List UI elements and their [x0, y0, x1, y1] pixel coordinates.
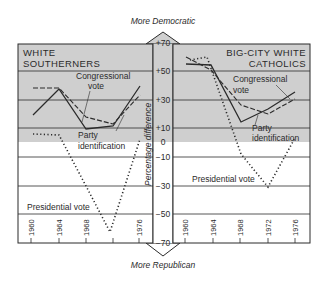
top-caption: More Democratic: [131, 16, 196, 26]
tick-plus-70: +70: [156, 38, 171, 48]
tick-plus-50: +50: [156, 66, 171, 76]
left-label-congressional-2: vote: [88, 81, 104, 91]
tick-zero: 0: [161, 137, 166, 147]
tick-minus-30: −30: [156, 181, 171, 191]
chart: More Democratic WHITE SOUTHERNERS Congre…: [0, 0, 326, 282]
tick-plus-10: +10: [156, 123, 171, 133]
y-axis-label: Percentage difference: [143, 103, 153, 186]
right-label-presidential: Presidential vote: [192, 174, 255, 184]
right-year-1972: 1972: [264, 219, 273, 236]
tick-minus-70: −70: [156, 238, 171, 248]
left-title-line2: SOUTHERNERS: [23, 58, 100, 69]
right-label-congressional: Congressional: [233, 74, 287, 84]
left-label-congressional: Congressional: [76, 71, 130, 81]
left-year-1960: 1960: [27, 219, 36, 236]
central-axis: +70 +50 +30 +10 0 −10 −30 −50 −70: [153, 38, 173, 248]
left-label-presidential: Presidential vote: [27, 202, 90, 212]
right-year-1964: 1964: [209, 219, 218, 236]
tick-plus-30: +30: [156, 95, 171, 105]
right-title-line1: BIG-CITY WHITE: [226, 47, 306, 58]
left-year-1968: 1968: [82, 219, 91, 236]
right-year-1968: 1968: [236, 219, 245, 236]
left-label-party-2: identification: [78, 141, 126, 151]
right-label-party-2: identification: [252, 133, 300, 143]
tick-minus-50: −50: [156, 209, 171, 219]
right-label-congressional-2: vote: [233, 85, 249, 95]
right-title-line2: CATHOLICS: [249, 58, 306, 69]
left-year-1964: 1964: [55, 219, 64, 236]
tick-minus-10: −10: [156, 152, 171, 162]
right-panel: BIG-CITY WHITE CATHOLICS Congressional v…: [173, 44, 310, 243]
bottom-caption: More Republican: [131, 260, 196, 270]
right-year-1976: 1976: [291, 219, 300, 236]
left-panel: WHITE SOUTHERNERS Congressional vote Par…: [18, 44, 153, 243]
left-year-1976: 1976: [135, 219, 144, 236]
right-year-1960: 1960: [181, 219, 190, 236]
left-label-party: Party: [78, 130, 99, 140]
left-title-line1: WHITE: [23, 47, 56, 58]
